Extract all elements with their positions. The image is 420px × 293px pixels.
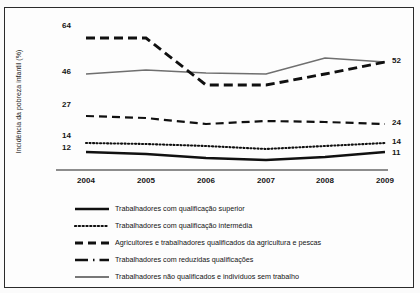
right-label-reduzidas-qualificacoes: 24 — [392, 118, 401, 127]
x-tick-2005: 2005 — [126, 176, 166, 185]
chart-legend: Trabalhadores com qualificação superior … — [74, 200, 394, 285]
left-label-qualificacao-superior: 12 — [62, 143, 71, 152]
legend-item-qualificacao-superior: Trabalhadores com qualificação superior — [74, 200, 394, 217]
legend-label-qualificacao-intermedia: Trabalhadores com qualificação intermédi… — [115, 221, 252, 230]
legend-item-reduzidas-qualificacoes: Trabalhadores com reduzidas qualificaçõe… — [74, 251, 394, 268]
legend-key-dash-medium-icon — [74, 255, 110, 265]
legend-label-qualificacao-superior: Trabalhadores com qualificação superior — [115, 204, 245, 213]
left-label-agricultores: 64 — [62, 21, 71, 30]
right-label-qualificacao-superior: 11 — [392, 148, 400, 157]
x-tick-2008: 2008 — [305, 176, 345, 185]
legend-key-dashed-thick-icon — [74, 238, 110, 248]
legend-label-nao-qualificados: Trabalhadores não qualificados e indivíd… — [115, 272, 299, 281]
series-line-qualificacao-superior — [86, 152, 385, 160]
left-label-reduzidas-qualificacoes: 27 — [62, 100, 71, 109]
series-line-qualificacao-intermedia — [86, 143, 385, 149]
legend-label-agricultores: Agricultores e trabalhadores qualificado… — [115, 238, 321, 247]
legend-key-dotted-icon — [74, 221, 110, 231]
x-tick-2009: 2009 — [365, 176, 405, 185]
series-line-reduzidas-qualificacoes — [86, 116, 385, 124]
chart-figure: Incidência da pobreza infantil (%) 64 46… — [0, 0, 420, 293]
legend-key-solid-thin-gray-icon — [74, 272, 110, 282]
left-label-nao-qualificados: 46 — [62, 67, 71, 76]
x-tick-2006: 2006 — [186, 176, 226, 185]
series-line-agricultores — [86, 38, 385, 85]
right-label-agricultores: 52 — [392, 56, 401, 65]
x-tick-2007: 2007 — [246, 176, 286, 185]
legend-item-nao-qualificados: Trabalhadores não qualificados e indivíd… — [74, 268, 394, 285]
plot-area: Incidência da pobreza infantil (%) 64 46… — [0, 0, 420, 293]
left-label-qualificacao-intermedia: 14 — [62, 131, 71, 140]
legend-item-agricultores: Agricultores e trabalhadores qualificado… — [74, 234, 394, 251]
x-tick-2004: 2004 — [66, 176, 106, 185]
legend-key-solid-thick-icon — [74, 204, 110, 214]
right-label-qualificacao-intermedia: 14 — [392, 137, 401, 146]
legend-label-reduzidas-qualificacoes: Trabalhadores com reduzidas qualificaçõe… — [115, 255, 253, 264]
legend-item-qualificacao-intermedia: Trabalhadores com qualificação intermédi… — [74, 217, 394, 234]
